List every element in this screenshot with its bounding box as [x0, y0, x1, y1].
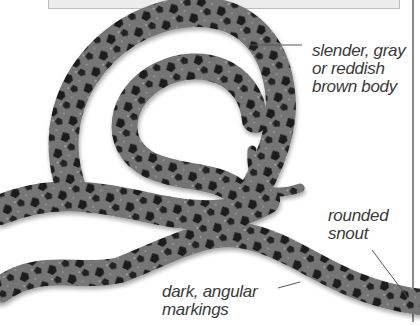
label-body: slender, gray or reddish brown body [312, 42, 405, 96]
label-snout: rounded snout [328, 207, 388, 243]
leader-line-markings [278, 282, 300, 288]
snake-illustration: slender, gray or reddish brown body roun… [0, 0, 420, 326]
label-markings: dark, angular markings [162, 283, 257, 319]
